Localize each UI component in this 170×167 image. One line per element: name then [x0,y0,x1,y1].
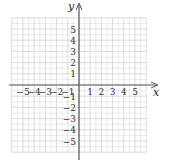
y-tick-label: 5 [70,25,76,35]
x-tick-label: 4 [121,87,127,97]
y-tick-label: 2 [70,58,76,68]
y-axis-label: y [67,0,75,13]
y-tick-label: 3 [70,47,76,57]
x-axis-label: x [153,86,160,99]
y-tick-label: −2 [63,103,76,113]
axes [9,3,158,160]
x-tick-label: 5 [132,87,138,97]
y-tick-label: −1 [63,92,76,102]
x-tick-labels: −5−4−3−2−112345 [16,87,138,97]
x-tick-label: 3 [110,87,116,97]
coordinate-plane: x y −5−4−3−2−112345 54321−1−2−3−4−5 [0,0,170,167]
x-tick-label: 1 [87,87,93,97]
y-tick-label: −5 [63,137,77,147]
y-tick-label: 1 [70,69,76,79]
y-tick-label: 4 [70,36,76,46]
y-tick-label: −3 [63,114,77,124]
x-tick-label: 2 [99,87,105,97]
y-tick-label: −4 [63,125,77,135]
